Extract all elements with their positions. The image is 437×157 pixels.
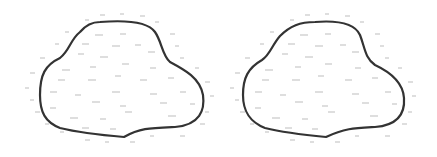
right-pond <box>230 14 416 142</box>
right-pond-outline <box>243 22 404 137</box>
left-pond-outline <box>40 21 203 137</box>
diagram-canvas <box>0 0 437 157</box>
left-pond <box>25 14 214 142</box>
ponds-drawing <box>0 0 437 157</box>
